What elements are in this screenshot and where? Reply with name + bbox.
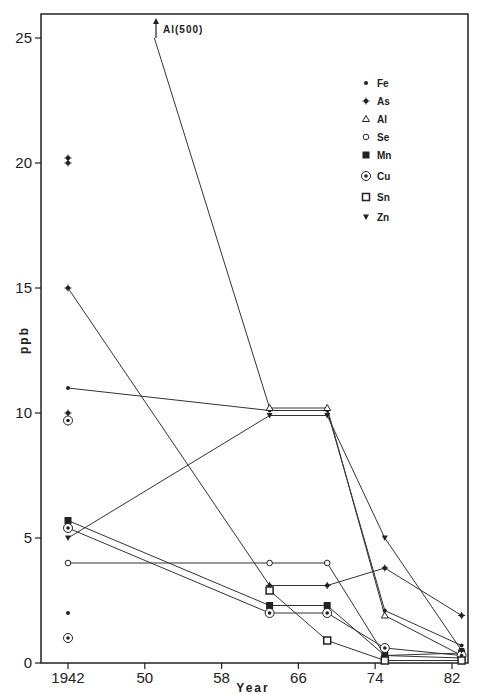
square-open-marker-icon	[324, 637, 331, 644]
y-tick-label: 15	[15, 279, 32, 296]
legend-item-zn: Zn	[363, 212, 389, 223]
legend-item-cu: Cu	[362, 171, 391, 182]
square-filled-marker-icon	[65, 517, 72, 524]
legend-item-sn: Sn	[363, 192, 390, 203]
triangle-marker-icon	[363, 116, 370, 122]
y-tick-label: 10	[15, 404, 32, 421]
legend-label: Fe	[377, 78, 389, 89]
triangle-down-marker-icon	[382, 536, 388, 542]
circle-dot-marker-icon	[66, 419, 70, 423]
square-filled-marker-icon	[324, 602, 331, 609]
circle-dot-marker-icon	[364, 174, 368, 178]
legend-label: Al	[377, 114, 387, 125]
series-line-mn	[68, 521, 462, 656]
arrow-up-icon	[153, 18, 159, 24]
x-tick-label: 82	[444, 669, 461, 686]
series-lines	[68, 38, 462, 661]
x-axis-title: Year	[236, 681, 269, 694]
legend-label: Se	[377, 132, 390, 143]
x-tick-label: 1942	[51, 669, 84, 686]
series-line-as	[68, 288, 462, 616]
asterisk-marker-icon	[65, 285, 72, 292]
legend-item-al: Al	[363, 114, 388, 125]
x-tick-label: 74	[367, 669, 384, 686]
series-markers	[64, 155, 467, 665]
circle-marker-icon	[324, 560, 330, 566]
circle-dot-marker-icon	[66, 636, 70, 640]
y-tick-label: 0	[24, 654, 32, 671]
dot-marker-icon	[364, 81, 368, 85]
x-tick-label: 66	[290, 669, 307, 686]
series-line-fe	[68, 388, 462, 646]
annotation-label: Al(500)	[163, 24, 203, 35]
circle-marker-icon	[363, 134, 369, 140]
legend: FeAsAlSeMnCuSnZn	[362, 78, 392, 223]
circle-marker-icon	[267, 560, 273, 566]
dot-marker-icon	[66, 611, 70, 615]
square-filled-marker-icon	[363, 152, 370, 159]
asterisk-marker-icon	[381, 565, 388, 572]
triangle-down-marker-icon	[363, 215, 369, 221]
circle-dot-marker-icon	[325, 611, 329, 615]
legend-label: Zn	[377, 212, 389, 223]
series-line-cu	[68, 528, 462, 656]
y-tick-label: 5	[24, 529, 32, 546]
legend-label: Cu	[377, 171, 390, 182]
circle-dot-marker-icon	[66, 526, 70, 530]
legend-label: As	[377, 96, 390, 107]
legend-item-se: Se	[363, 132, 389, 143]
circle-dot-marker-icon	[383, 646, 387, 650]
square-filled-marker-icon	[266, 602, 273, 609]
legend-item-as: As	[363, 96, 391, 107]
square-open-marker-icon	[458, 657, 465, 664]
y-axis-title: ppb	[17, 326, 31, 354]
legend-item-fe: Fe	[364, 78, 389, 89]
legend-label: Mn	[377, 150, 391, 161]
annotation: Al(500)	[153, 18, 203, 38]
y-tick-label: 25	[15, 29, 32, 46]
dot-marker-icon	[66, 386, 70, 390]
square-open-marker-icon	[266, 587, 273, 594]
asterisk-marker-icon	[458, 612, 465, 619]
x-tick-label: 58	[213, 669, 230, 686]
asterisk-marker-icon	[65, 160, 72, 167]
square-open-marker-icon	[363, 194, 370, 201]
dot-marker-icon	[460, 644, 464, 648]
triangle-down-marker-icon	[65, 536, 71, 542]
asterisk-marker-icon	[65, 410, 72, 417]
y-tick-label: 20	[15, 154, 32, 171]
square-open-marker-icon	[381, 657, 388, 664]
circle-marker-icon	[65, 560, 71, 566]
chart: 0510152025 19425058667482 FeAsAlSeMnCuSn…	[0, 0, 483, 694]
legend-item-mn: Mn	[363, 150, 392, 161]
triangle-marker-icon	[381, 612, 388, 618]
circle-dot-marker-icon	[268, 611, 272, 615]
x-tick-label: 50	[136, 669, 153, 686]
series-line-zn	[68, 416, 462, 651]
legend-label: Sn	[377, 192, 390, 203]
asterisk-marker-icon	[363, 98, 370, 105]
asterisk-marker-icon	[324, 582, 331, 589]
